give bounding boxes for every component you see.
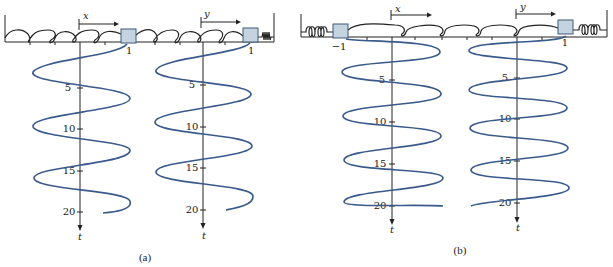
panel-b-caption: (b): [454, 244, 467, 257]
panel-a-x-arrow: x: [79, 10, 119, 30]
svg-text:15: 15: [374, 158, 387, 169]
svg-text:t: t: [78, 231, 83, 242]
panel-a-mass-1: [121, 29, 136, 43]
panel-b-mass-right: [558, 20, 573, 34]
svg-text:20: 20: [63, 206, 76, 217]
panel-a-mass-1-label: 1: [126, 45, 132, 56]
panel-b-spring-right: [573, 25, 607, 35]
panel-a-walls: [5, 13, 274, 42]
panel-a-caption: (a): [139, 251, 152, 264]
panel-b: −1 1 x y 5 10 15 20 t: [301, 1, 607, 257]
panel-a-mass-2-label: 1: [248, 45, 254, 56]
panel-a: 1 1 x y 5 10 15 20 t: [5, 8, 274, 264]
panel-b-y-arrow: y: [516, 1, 556, 19]
panel-b-mass-left-label: −1: [332, 41, 347, 52]
panel-a-spring-middle: [136, 30, 243, 43]
panel-b-mass-left: [333, 24, 348, 38]
svg-text:x: x: [83, 10, 89, 21]
svg-text:x: x: [395, 3, 401, 14]
svg-text:20: 20: [499, 197, 512, 208]
panel-b-x-arrow: x: [391, 3, 432, 20]
svg-text:5: 5: [379, 74, 385, 85]
panel-a-mass-2: [243, 28, 258, 42]
svg-text:20: 20: [186, 204, 199, 215]
svg-text:y: y: [203, 8, 210, 19]
svg-text:y: y: [519, 1, 526, 12]
svg-text:10: 10: [63, 123, 76, 134]
panel-a-spring-right: [258, 32, 274, 40]
coupled-oscillator-figure: 1 1 x y 5 10 15 20 t: [0, 0, 613, 267]
svg-text:t: t: [516, 222, 521, 233]
panel-b-spring-middle: [348, 24, 558, 36]
panel-a-time-axis-x: 5 10 15 20 t: [63, 42, 83, 242]
svg-text:15: 15: [186, 162, 199, 173]
svg-text:t: t: [390, 224, 395, 235]
panel-b-spring-left: [301, 27, 333, 37]
panel-a-time-axis-y: 5 10 15 20 t: [186, 42, 207, 241]
panel-a-y-arrow: y: [201, 8, 241, 28]
panel-b-time-axis-y: 5 10 15 20 t: [499, 37, 521, 233]
svg-text:10: 10: [186, 121, 199, 132]
panel-b-y-trajectory: [469, 36, 569, 206]
panel-b-mass-right-label: 1: [562, 37, 568, 48]
svg-text:t: t: [202, 230, 207, 241]
panel-a-spring-left: [5, 30, 121, 43]
